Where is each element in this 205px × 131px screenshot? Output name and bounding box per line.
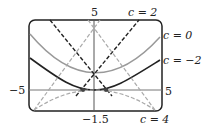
legend-c2: c = 2 <box>128 7 157 18</box>
legend-cminus2: c = −2 <box>163 55 202 66</box>
legend-c0: c = 0 <box>163 30 192 41</box>
y-bottom-tick-label: −1.5 <box>82 114 109 125</box>
legend-c4: c = 4 <box>140 114 169 125</box>
y-top-tick-label: 5 <box>91 7 98 18</box>
x-left-tick-label: −5 <box>9 85 25 96</box>
x-right-tick-label: 5 <box>165 86 172 97</box>
